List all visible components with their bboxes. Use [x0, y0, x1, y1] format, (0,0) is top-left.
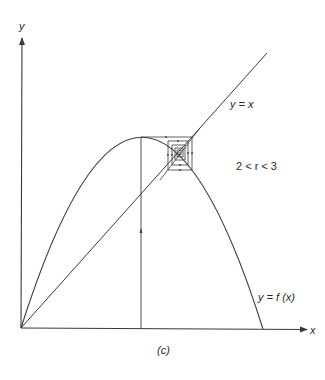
figure-caption: (c): [157, 344, 170, 356]
x-axis-label: x: [309, 324, 316, 336]
y-axis: [21, 38, 22, 328]
x-axis: [21, 328, 307, 330]
cobweb-spiral: [141, 128, 200, 180]
y-axis-label: y: [18, 20, 26, 32]
diagonal-label: y = x: [229, 98, 254, 110]
up-arrow-icon: [140, 228, 143, 233]
map-curve-label: y = f (x): [257, 291, 295, 303]
cobweb-diagram: y x y = x 2 < r < 3 y = f (x) (c): [0, 0, 325, 380]
diagonal-line: [21, 53, 267, 328]
parameter-label: 2 < r < 3: [236, 160, 277, 172]
map-curve: [21, 137, 263, 329]
